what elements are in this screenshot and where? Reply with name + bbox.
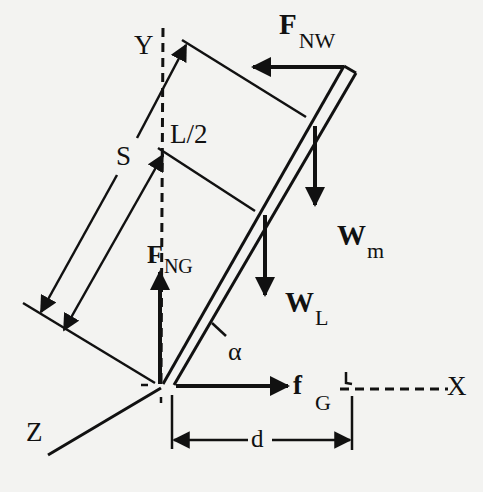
wall-normal-force-label: FNW	[279, 8, 336, 53]
ladder-weight-label: WL	[285, 286, 328, 330]
x-axis-label: X	[447, 371, 467, 401]
s-label: S	[116, 141, 131, 171]
alpha-label: α	[228, 337, 242, 366]
s-dimension-lower	[41, 175, 117, 312]
d-label: d	[251, 425, 264, 452]
y-axis-label: Y	[134, 30, 154, 60]
free-body-diagram: Y X Z S L/2 d α FNW Wm WL FNG fG	[0, 0, 483, 492]
angle-tick-ground	[346, 372, 352, 384]
s-top-extension	[182, 40, 306, 117]
half-length-label: L/2	[170, 119, 208, 149]
mass-weight-label: Wm	[337, 219, 384, 263]
angle-tick-ladder	[212, 323, 226, 336]
base-extension	[23, 303, 155, 383]
z-axis-label: Z	[26, 417, 43, 447]
ground-friction-label: fG	[293, 370, 331, 415]
ladder	[163, 66, 356, 385]
half-length-extension	[158, 148, 255, 211]
z-axis	[48, 388, 161, 455]
ground-normal-force-label: FNG	[147, 240, 193, 277]
